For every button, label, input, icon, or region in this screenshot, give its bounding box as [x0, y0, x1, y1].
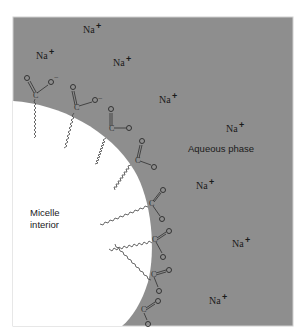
svg-text:+: +: [49, 47, 54, 57]
micelle-interior-label-line1: Micelle: [30, 207, 60, 218]
svg-text:C: C: [151, 270, 156, 279]
svg-text:+: +: [209, 177, 214, 187]
svg-text:+: +: [239, 120, 244, 130]
micelle-diagram: C − C − C C: [0, 0, 304, 332]
svg-text:−: −: [54, 73, 59, 82]
svg-text:C: C: [149, 199, 154, 208]
svg-text:C: C: [152, 235, 157, 244]
svg-text:C: C: [141, 305, 146, 314]
svg-text:Na: Na: [209, 295, 221, 306]
svg-text:+: +: [245, 235, 250, 245]
svg-text:C: C: [74, 103, 79, 112]
svg-text:Na: Na: [83, 24, 95, 35]
svg-text:C: C: [33, 91, 38, 100]
svg-text:Na: Na: [36, 50, 48, 61]
svg-text:C: C: [135, 156, 140, 165]
svg-text:+: +: [126, 54, 131, 64]
aqueous-phase-label: Aqueous phase: [188, 143, 254, 154]
svg-text:Na: Na: [113, 57, 125, 68]
svg-text:Na: Na: [226, 123, 238, 134]
svg-text:−: −: [98, 94, 103, 103]
svg-text:+: +: [96, 21, 101, 31]
svg-text:Na: Na: [232, 238, 244, 249]
svg-text:Na: Na: [159, 94, 171, 105]
svg-text:C: C: [109, 124, 114, 133]
svg-text:+: +: [172, 91, 177, 101]
svg-text:+: +: [222, 292, 227, 302]
svg-text:Na: Na: [196, 180, 208, 191]
micelle-interior-label-line2: interior: [30, 219, 59, 230]
